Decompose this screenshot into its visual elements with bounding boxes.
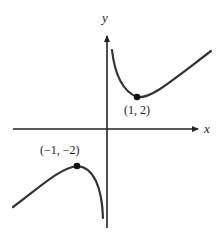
local-minimum-point <box>134 94 141 101</box>
curve-left-branch <box>13 166 103 218</box>
function-plot: x y (1, 2) (−1, −2) <box>0 0 219 236</box>
local-maximum-point <box>74 163 81 170</box>
x-axis-label: x <box>203 121 210 136</box>
y-axis-label: y <box>100 10 108 25</box>
local-maximum-label: (−1, −2) <box>40 143 80 157</box>
curve-right-branch <box>112 50 211 97</box>
local-minimum-label: (1, 2) <box>124 103 150 117</box>
